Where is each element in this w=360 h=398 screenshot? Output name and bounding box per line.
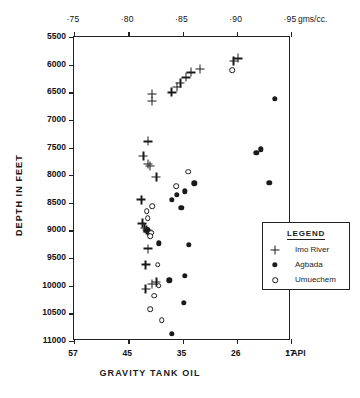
data-point: [143, 244, 152, 253]
legend-marker-open-circle: [272, 277, 278, 283]
data-point: [167, 277, 172, 282]
y-axis-tick-label: 8500: [18, 197, 66, 207]
data-point: [143, 137, 152, 146]
y-axis-tick: [69, 341, 74, 342]
bottom-axis-tick: [128, 339, 129, 344]
data-point: [267, 180, 272, 185]
y-axis-tick-label: 9500: [18, 252, 66, 262]
bottom-axis-tick: [183, 339, 184, 344]
data-point: [182, 273, 187, 278]
y-axis-tick: [69, 230, 74, 231]
legend-entry: Agbada: [273, 258, 351, 272]
top-axis-tick-label: ·85: [175, 14, 188, 24]
y-axis-tick-label: 7500: [18, 142, 66, 152]
data-point: [186, 242, 191, 247]
data-point: [141, 285, 150, 294]
data-points-layer: [74, 37, 289, 339]
top-axis-tick: [291, 32, 292, 37]
data-point: [187, 68, 196, 77]
data-point: [233, 54, 242, 63]
data-point: [258, 146, 263, 151]
top-axis-tick-label: ·95: [284, 14, 297, 24]
bottom-axis-tick-label: 45: [123, 348, 132, 358]
data-point: [272, 96, 277, 101]
top-axis-tick-label: ·75: [67, 14, 80, 24]
data-point: [169, 331, 174, 336]
y-axis-tick: [69, 203, 74, 204]
y-axis-tick: [69, 313, 74, 314]
x-axis-title: GRAVITY TANK OIL: [0, 368, 300, 378]
y-axis-title: DEPTH IN FEET: [14, 154, 24, 236]
bottom-axis-tick: [74, 339, 75, 344]
data-point: [144, 208, 150, 214]
legend: LEGEND Imo RiverAgbadaUmuechem: [262, 222, 350, 290]
data-point: [159, 317, 165, 323]
data-point: [254, 150, 259, 155]
y-axis-tick: [69, 92, 74, 93]
data-point: [148, 89, 157, 98]
legend-entry: Imo River: [273, 243, 351, 257]
data-point: [181, 300, 186, 305]
y-axis-tick-label: 8000: [18, 169, 66, 179]
y-axis-tick-label: 10500: [18, 307, 66, 317]
data-point: [230, 67, 236, 73]
legend-marker-plus: [271, 246, 280, 255]
y-axis-tick: [69, 148, 74, 149]
top-axis-tick-label: ·90: [229, 14, 242, 24]
data-point: [179, 205, 184, 210]
top-axis-tick: [183, 32, 184, 37]
data-point: [182, 189, 187, 194]
figure-root: ·75·80·85·90·955745352617550060006500700…: [0, 0, 360, 398]
data-point: [151, 293, 157, 299]
top-axis-tick: [237, 32, 238, 37]
top-axis-tick-label: ·80: [121, 14, 134, 24]
bottom-axis-tick: [237, 339, 238, 344]
bottom-axis-tick-label: 57: [68, 348, 77, 358]
data-point: [173, 183, 179, 189]
y-axis-tick: [69, 175, 74, 176]
bottom-axis-tick: [291, 339, 292, 344]
legend-entry: Umuechem: [273, 273, 351, 287]
top-axis-tick: [128, 32, 129, 37]
plot-area: [73, 36, 290, 340]
data-point: [192, 181, 197, 186]
data-point: [141, 260, 150, 269]
y-axis-tick: [69, 120, 74, 121]
top-axis-units-label: gms/cc.: [298, 14, 327, 24]
data-point: [152, 172, 161, 181]
bottom-axis-units-label: ° API: [286, 348, 306, 358]
legend-entry-label: Agbada: [295, 258, 323, 272]
data-point: [185, 169, 191, 175]
y-axis-tick-label: 6500: [18, 86, 66, 96]
data-point: [145, 161, 154, 170]
legend-marker-filled-circle: [272, 262, 277, 267]
y-axis-tick: [69, 37, 74, 38]
bottom-axis-tick-label: 35: [177, 348, 186, 358]
y-axis-tick-label: 5500: [18, 31, 66, 41]
y-axis-tick: [69, 65, 74, 66]
data-point: [147, 233, 153, 239]
y-axis-tick-label: 6000: [18, 59, 66, 69]
data-point: [147, 306, 153, 312]
data-point: [155, 262, 161, 268]
data-point: [169, 197, 174, 202]
y-axis-tick-label: 11000: [18, 335, 66, 345]
legend-entry-label: Umuechem: [295, 273, 336, 287]
legend-entry-label: Imo River: [295, 243, 329, 257]
data-point: [145, 215, 151, 221]
bottom-axis-tick-label: 26: [231, 348, 240, 358]
y-axis-tick-label: 9000: [18, 224, 66, 234]
y-axis-tick-label: 7000: [18, 114, 66, 124]
data-point: [149, 203, 155, 209]
data-point: [174, 192, 179, 197]
data-point: [156, 283, 162, 289]
legend-title-text: LEGEND: [287, 229, 325, 240]
y-axis-tick-label: 10000: [18, 280, 66, 290]
y-axis-tick: [69, 258, 74, 259]
top-axis-tick: [74, 32, 75, 37]
data-point: [137, 195, 146, 204]
legend-title: LEGEND: [263, 229, 349, 238]
data-point: [195, 65, 204, 74]
data-point: [156, 240, 161, 245]
y-axis-tick: [69, 286, 74, 287]
